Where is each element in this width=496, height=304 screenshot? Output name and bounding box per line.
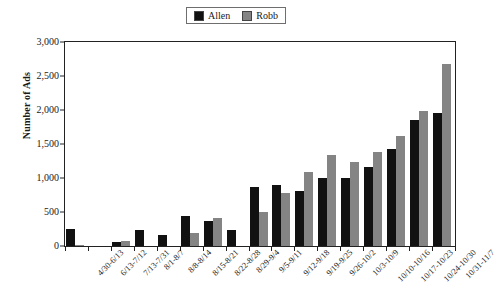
bar-robb (213, 218, 222, 246)
bar-allen (181, 216, 190, 246)
bar-robb (419, 111, 428, 246)
bar-allen (204, 221, 213, 246)
bar-allen (272, 185, 281, 246)
bar-group (317, 42, 340, 246)
bar-robb (304, 172, 313, 246)
bar-robb (75, 245, 84, 246)
bar-robb (259, 212, 268, 246)
bar-group (203, 42, 226, 246)
legend-entry-allen: Allen (194, 11, 230, 21)
bar-robb (442, 64, 451, 246)
y-axis-title: Number of Ads (21, 36, 32, 176)
bar-group (294, 42, 317, 246)
bar-group (226, 42, 249, 246)
bar-allen (112, 242, 121, 246)
bar-allen (364, 167, 373, 246)
bar-robb (350, 162, 359, 246)
legend-entry-robb: Robb (242, 11, 278, 21)
bar-group (249, 42, 272, 246)
bar-group (340, 42, 363, 246)
bar-group (432, 42, 455, 246)
x-axis-tick-labels: 4/30-6/136/13-7/127/13-7/318/1-8/78/8-8/… (64, 248, 456, 304)
legend-swatch-robb (242, 11, 252, 21)
bar-group (65, 42, 88, 246)
bar-allen (433, 113, 442, 246)
bar-allen (135, 230, 144, 246)
bar-group (111, 42, 134, 246)
bar-series-container (65, 42, 455, 246)
bar-group (157, 42, 180, 246)
bar-allen (387, 149, 396, 246)
bar-allen (158, 235, 167, 246)
bar-group (88, 42, 111, 246)
legend-swatch-allen (194, 11, 204, 21)
bar-group (363, 42, 386, 246)
x-axis-tick-label: 8/8-8/14 (186, 248, 213, 275)
bar-allen (250, 187, 259, 246)
bar-allen (341, 178, 350, 246)
chart-legend: Allen Robb (186, 7, 286, 24)
bar-robb (281, 193, 290, 246)
bar-robb (373, 152, 382, 246)
legend-label-allen: Allen (208, 11, 230, 21)
plot-area: 05001,0001,5002,0002,5003,000 (64, 41, 456, 247)
legend-label-robb: Robb (256, 11, 278, 21)
bar-robb (327, 155, 336, 246)
bar-group (409, 42, 432, 246)
bar-robb (121, 241, 130, 246)
bar-group (386, 42, 409, 246)
bar-robb (190, 233, 199, 246)
bar-group (134, 42, 157, 246)
bar-allen (66, 229, 75, 246)
bar-group (271, 42, 294, 246)
bar-allen (318, 178, 327, 246)
bar-allen (410, 120, 419, 246)
bar-allen (295, 191, 304, 246)
bar-allen (227, 230, 236, 246)
bar-robb (396, 136, 405, 246)
bar-group (180, 42, 203, 246)
